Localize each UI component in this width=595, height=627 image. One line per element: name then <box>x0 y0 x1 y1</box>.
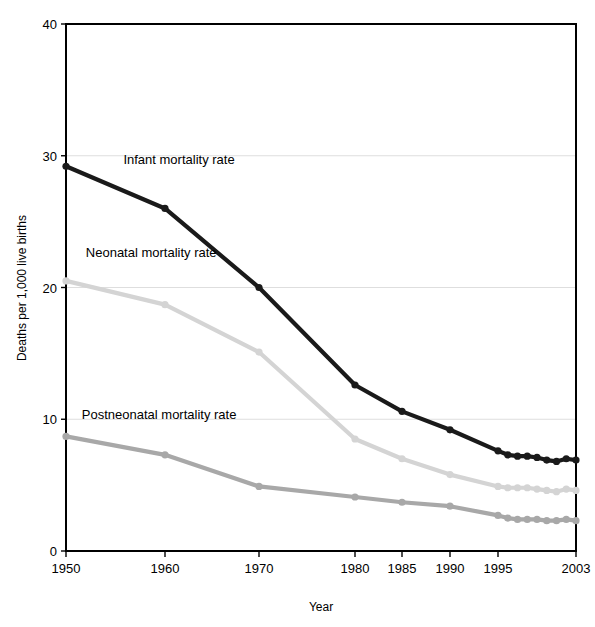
series-data-point <box>543 517 550 524</box>
series-data-point <box>446 471 453 478</box>
y-axis-tick-label: 40 <box>43 17 57 32</box>
series-data-point <box>161 301 168 308</box>
series-data-point <box>533 454 540 461</box>
y-axis-title: Deaths per 1,000 live births <box>15 215 29 361</box>
series-data-point <box>563 455 570 462</box>
series-data-point <box>504 514 511 521</box>
series-data-point <box>543 487 550 494</box>
series-label-3: Postneonatal mortality rate <box>82 407 237 422</box>
series-data-point <box>543 456 550 463</box>
series-data-point <box>514 484 521 491</box>
x-axis-tick-label: 1995 <box>484 561 513 576</box>
series-data-point <box>62 433 69 440</box>
x-axis-tick-label: 1950 <box>52 561 81 576</box>
series-data-point <box>255 483 262 490</box>
series-data-point <box>572 517 579 524</box>
series-data-point <box>504 484 511 491</box>
series-data-point <box>255 348 262 355</box>
series-data-point <box>351 381 358 388</box>
series-data-point <box>563 516 570 523</box>
y-axis-tick-label: 10 <box>43 412 57 427</box>
x-axis-title: Year <box>309 600 333 614</box>
series-data-point <box>62 277 69 284</box>
series-data-point <box>524 516 531 523</box>
series-data-point <box>62 163 69 170</box>
series-data-point <box>563 485 570 492</box>
y-axis-tick-label: 20 <box>43 281 57 296</box>
series-data-point <box>514 453 521 460</box>
x-axis-tick-label: 1960 <box>151 561 180 576</box>
series-data-point <box>572 456 579 463</box>
series-data-point <box>572 487 579 494</box>
series-data-point <box>398 499 405 506</box>
x-axis-tick-label: 2003 <box>562 561 591 576</box>
series-data-point <box>255 284 262 291</box>
series-data-point <box>494 512 501 519</box>
series-data-point <box>351 435 358 442</box>
infant-mortality-chart: 010203040 195019601970198019851990199520… <box>0 0 595 627</box>
series-data-point <box>533 485 540 492</box>
series-data-point <box>351 493 358 500</box>
series-data-point <box>553 517 560 524</box>
series-data-point <box>504 451 511 458</box>
series-data-point <box>398 408 405 415</box>
series-data-point <box>161 205 168 212</box>
series-data-point <box>533 516 540 523</box>
series-data-point <box>398 455 405 462</box>
series-label-2: Neonatal mortality rate <box>86 245 217 260</box>
series-data-point <box>514 516 521 523</box>
chart-background <box>0 0 595 627</box>
series-data-point <box>161 451 168 458</box>
x-axis-tick-label: 1970 <box>245 561 274 576</box>
series-data-point <box>494 447 501 454</box>
series-data-point <box>553 458 560 465</box>
x-axis-tick-label: 1980 <box>341 561 370 576</box>
series-data-point <box>446 426 453 433</box>
series-label-1: Infant mortality rate <box>123 152 234 167</box>
series-data-point <box>553 488 560 495</box>
series-data-point <box>494 483 501 490</box>
series-data-point <box>446 503 453 510</box>
y-axis-tick-label: 0 <box>50 544 57 559</box>
x-axis-tick-label: 1985 <box>388 561 417 576</box>
x-axis-tick-label: 1990 <box>436 561 465 576</box>
series-data-point <box>524 484 531 491</box>
chart-canvas: 010203040 195019601970198019851990199520… <box>0 0 595 627</box>
y-axis-tick-label: 30 <box>43 149 57 164</box>
series-data-point <box>524 453 531 460</box>
